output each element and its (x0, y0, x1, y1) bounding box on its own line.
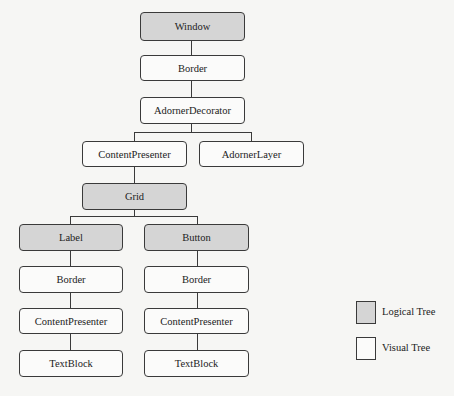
edge-label-border (70, 251, 71, 266)
node-label: Label (59, 232, 83, 243)
node-label-content-presenter: ContentPresenter (19, 308, 123, 334)
node-adorner-layer: AdornerLayer (199, 141, 304, 167)
node-label: ContentPresenter (35, 316, 107, 327)
node-content-presenter: ContentPresenter (82, 141, 187, 167)
legend-swatch-visual (356, 337, 376, 360)
node-label: Border (182, 274, 211, 285)
node-label: AdornerLayer (222, 149, 281, 160)
node-label-border: Border (19, 266, 123, 293)
node-label: TextBlock (175, 358, 219, 369)
node-grid: Grid (82, 183, 187, 210)
node-label: ContentPresenter (98, 149, 170, 160)
edge-adornerdecorator-branch (134, 132, 252, 133)
edge-border-adornerdecorator (191, 81, 192, 97)
node-label: Grid (125, 191, 144, 202)
edge-grid-branch (70, 216, 198, 217)
edge-label-border-cp (70, 293, 71, 308)
node-label: Border (56, 274, 85, 285)
node-label: Label (19, 224, 123, 251)
node-window: Window (140, 12, 245, 41)
edge-label-cp-textblock (70, 334, 71, 350)
node-button-border: Border (144, 266, 249, 293)
edge-adornerdecorator-trunk (191, 124, 192, 132)
node-button-textblock: TextBlock (144, 350, 249, 377)
node-button: Button (144, 224, 249, 251)
node-adorner-decorator: AdornerDecorator (140, 97, 245, 124)
node-label: AdornerDecorator (154, 105, 231, 116)
node-label: Window (175, 21, 211, 32)
node-label: ContentPresenter (160, 316, 232, 327)
legend-swatch-logical (356, 301, 376, 324)
node-label: Button (182, 232, 211, 243)
edge-to-button (197, 216, 198, 224)
node-label-textblock: TextBlock (19, 350, 123, 377)
edge-button-border (197, 251, 198, 266)
node-label: TextBlock (49, 358, 93, 369)
edge-to-label (70, 216, 71, 224)
node-button-content-presenter: ContentPresenter (144, 308, 249, 334)
edge-to-adornerlayer (251, 132, 252, 141)
node-border: Border (140, 55, 245, 81)
edge-button-border-cp (197, 293, 198, 308)
edge-button-cp-textblock (197, 334, 198, 350)
edge-window-border (191, 41, 192, 55)
legend-label-visual: Visual Tree (382, 342, 430, 353)
edge-to-contentpresenter (134, 132, 135, 141)
edge-contentpresenter-grid (134, 167, 135, 183)
node-label: Border (178, 63, 207, 74)
legend-label-logical: Logical Tree (382, 306, 435, 317)
